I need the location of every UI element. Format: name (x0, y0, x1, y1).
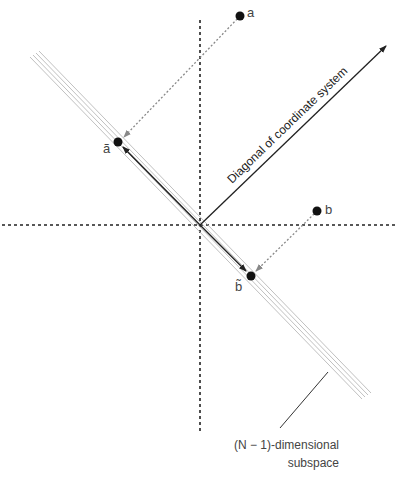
projection-b (256, 211, 317, 271)
point-a-proj (114, 138, 123, 147)
diagonal-label: Diagonal of coordinate system (224, 64, 350, 186)
point-a (236, 12, 245, 21)
subspace-label-line1: (N − 1)-dimensional (234, 438, 339, 452)
vector-to-b-proj (200, 225, 246, 271)
label-b-proj: b̃ (235, 279, 242, 294)
label-b: b (325, 202, 332, 217)
subspace-pointer (280, 372, 328, 428)
point-b-proj (247, 272, 256, 281)
projection-a (124, 16, 240, 137)
projection-diagram: a ã b b̃ Diagonal of coordinate system (… (0, 0, 398, 478)
subspace-label-line2: subspace (288, 456, 340, 470)
vector-to-a-proj (123, 147, 200, 225)
point-b (313, 207, 322, 216)
diagonal-arrow (200, 46, 386, 225)
label-a-proj: ã (103, 141, 111, 156)
label-a: a (247, 5, 255, 20)
